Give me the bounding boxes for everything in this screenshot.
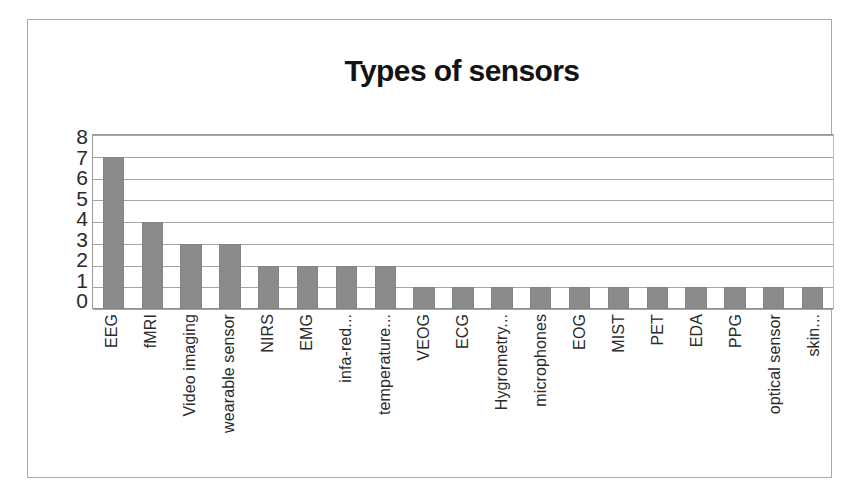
x-axis-label-slot: skin... bbox=[794, 312, 833, 492]
bar-slot bbox=[521, 135, 560, 309]
x-axis-category-label: EMG bbox=[298, 314, 316, 351]
chart-title: Types of sensors bbox=[88, 54, 836, 88]
x-axis-label-slot: Video imaging bbox=[171, 312, 210, 492]
bar[interactable] bbox=[219, 244, 240, 309]
bar-slot bbox=[560, 135, 599, 309]
bar-slot bbox=[754, 135, 793, 309]
x-axis-category-label: optical sensor bbox=[766, 314, 784, 414]
x-axis-label-slot: ECG bbox=[444, 312, 483, 492]
x-axis-category-label: temperature... bbox=[376, 314, 394, 415]
bar-slot bbox=[211, 135, 250, 309]
y-axis-tick: 4 bbox=[76, 210, 88, 228]
x-axis-label-slot: temperature... bbox=[366, 312, 405, 492]
x-axis-label-slot: PET bbox=[638, 312, 677, 492]
x-axis-category-labels: EEGfMRIVideo imagingwearable sensorNIRSE… bbox=[92, 312, 834, 492]
x-axis-category-label: skin... bbox=[805, 314, 823, 357]
bar-slot bbox=[366, 135, 405, 309]
bar[interactable] bbox=[336, 266, 357, 310]
x-axis-category-label: MIST bbox=[610, 314, 628, 353]
y-axis-tick: 7 bbox=[76, 149, 88, 167]
x-axis-label-slot: microphones bbox=[521, 312, 560, 492]
x-axis-label-slot: MIST bbox=[599, 312, 638, 492]
x-axis-category-label: ECG bbox=[454, 314, 472, 349]
x-axis-label-slot: wearable sensor bbox=[210, 312, 249, 492]
y-axis-tick: 8 bbox=[76, 128, 88, 146]
bar-slot bbox=[94, 135, 133, 309]
y-axis-tick: 3 bbox=[76, 231, 88, 249]
x-axis-category-label: NIRS bbox=[259, 314, 277, 353]
bar[interactable] bbox=[413, 287, 434, 309]
x-axis-category-label: VEOG bbox=[415, 314, 433, 361]
bar[interactable] bbox=[452, 287, 473, 309]
chart-frame: Types of sensors 876543210 EEGfMRIVideo … bbox=[27, 19, 832, 478]
plot-area bbox=[92, 134, 834, 309]
bar-slot bbox=[716, 135, 755, 309]
x-axis-label-slot: NIRS bbox=[249, 312, 288, 492]
x-axis-category-label: infa-red... bbox=[337, 314, 355, 383]
x-axis-category-label: Hygrometry... bbox=[493, 314, 511, 410]
x-axis-label-slot: EDA bbox=[677, 312, 716, 492]
bar-slot bbox=[444, 135, 483, 309]
bar-series bbox=[93, 135, 833, 309]
bar-slot bbox=[793, 135, 832, 309]
x-axis-label-slot: fMRI bbox=[132, 312, 171, 492]
x-axis-category-label: Video imaging bbox=[181, 314, 199, 416]
y-axis-tick: 5 bbox=[76, 190, 88, 208]
x-axis-category-label: PET bbox=[649, 314, 667, 345]
bar[interactable] bbox=[763, 287, 784, 309]
bar[interactable] bbox=[569, 287, 590, 309]
bar-slot bbox=[599, 135, 638, 309]
y-axis-tick-labels: 876543210 bbox=[66, 128, 88, 310]
bar[interactable] bbox=[491, 287, 512, 309]
bar[interactable] bbox=[258, 266, 279, 310]
x-axis-category-label: EEG bbox=[103, 314, 121, 348]
bar[interactable] bbox=[180, 244, 201, 309]
x-axis-label-slot: VEOG bbox=[405, 312, 444, 492]
bar[interactable] bbox=[375, 266, 396, 310]
y-axis-tick: 2 bbox=[76, 251, 88, 269]
gridline bbox=[93, 309, 833, 310]
bar[interactable] bbox=[142, 222, 163, 309]
x-axis-label-slot: PPG bbox=[716, 312, 755, 492]
x-axis-category-label: EOG bbox=[571, 314, 589, 350]
bar[interactable] bbox=[724, 287, 745, 309]
bar[interactable] bbox=[297, 266, 318, 310]
bar-slot bbox=[405, 135, 444, 309]
x-axis-category-label: EDA bbox=[688, 314, 706, 347]
bar[interactable] bbox=[802, 287, 823, 309]
bar[interactable] bbox=[608, 287, 629, 309]
bar[interactable] bbox=[103, 157, 124, 309]
x-axis-label-slot: optical sensor bbox=[755, 312, 794, 492]
bar[interactable] bbox=[685, 287, 706, 309]
y-axis-tick: 0 bbox=[76, 292, 88, 310]
bar-slot bbox=[482, 135, 521, 309]
x-axis-label-slot: EEG bbox=[93, 312, 132, 492]
bar-slot bbox=[327, 135, 366, 309]
x-axis-category-label: PPG bbox=[727, 314, 745, 348]
bar-slot bbox=[249, 135, 288, 309]
y-axis-tick: 6 bbox=[76, 169, 88, 187]
bar-slot bbox=[677, 135, 716, 309]
y-axis-tick: 1 bbox=[76, 272, 88, 290]
x-axis-label-slot: EMG bbox=[288, 312, 327, 492]
x-axis-label-slot: EOG bbox=[560, 312, 599, 492]
x-axis-label-slot: infa-red... bbox=[327, 312, 366, 492]
bar[interactable] bbox=[530, 287, 551, 309]
bar-slot bbox=[172, 135, 211, 309]
bar[interactable] bbox=[647, 287, 668, 309]
x-axis-label-slot: Hygrometry... bbox=[483, 312, 522, 492]
bar-slot bbox=[133, 135, 172, 309]
bar-slot bbox=[638, 135, 677, 309]
x-axis-category-label: fMRI bbox=[142, 314, 160, 348]
x-axis-category-label: microphones bbox=[532, 314, 550, 407]
bar-slot bbox=[288, 135, 327, 309]
x-axis-category-label: wearable sensor bbox=[220, 314, 238, 433]
